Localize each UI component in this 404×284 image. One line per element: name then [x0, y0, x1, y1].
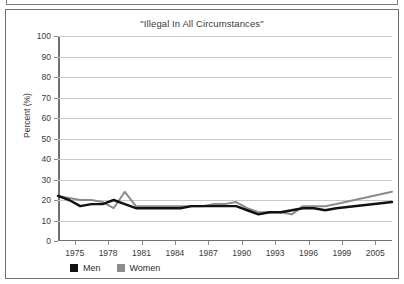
- legend-label: Men: [83, 263, 101, 273]
- plot-area: 0102030405060708090100 19751978198119841…: [58, 36, 392, 241]
- legend-swatch-men: [70, 264, 78, 272]
- x-axis-tick: [142, 241, 143, 245]
- x-axis-tick-label: 1981: [132, 248, 151, 258]
- chart-title: "Illegal In All Circumstances": [6, 18, 398, 29]
- x-axis-tick: [309, 241, 310, 245]
- x-axis-tick-label: 1990: [232, 248, 251, 258]
- y-axis-tick-label: 0: [46, 236, 51, 246]
- y-axis-tick-label: 60: [42, 113, 51, 123]
- x-axis-tick: [108, 241, 109, 245]
- x-axis-tick-label: 1975: [65, 248, 84, 258]
- y-axis-tick-label: 70: [42, 93, 51, 103]
- top-clipped-element: [6, 0, 398, 5]
- x-axis-tick: [75, 241, 76, 245]
- x-axis-tick: [208, 241, 209, 245]
- y-axis-tick-label: 50: [42, 134, 51, 144]
- x-axis-tick: [275, 241, 276, 245]
- y-axis-tick-label: 10: [42, 216, 51, 226]
- y-axis-title: Percent (%): [22, 93, 32, 138]
- y-axis-tick-label: 30: [42, 175, 51, 185]
- y-axis-tick-label: 90: [42, 52, 51, 62]
- legend-swatch-women: [117, 264, 125, 272]
- y-axis-tick-label: 80: [42, 72, 51, 82]
- y-axis-tick-label: 100: [37, 31, 51, 41]
- y-axis-tick-label: 20: [42, 195, 51, 205]
- x-axis-tick-label: 2005: [366, 248, 385, 258]
- x-axis-tick-label: 1978: [99, 248, 118, 258]
- chart-legend: MenWomen: [70, 263, 160, 273]
- x-axis-tick-label: 1999: [332, 248, 351, 258]
- x-axis-tick-label: 1993: [266, 248, 285, 258]
- x-axis-tick: [375, 241, 376, 245]
- series-lines: [58, 36, 392, 241]
- x-axis-tick: [242, 241, 243, 245]
- x-axis-tick-label: 1987: [199, 248, 218, 258]
- legend-label: Women: [130, 263, 161, 273]
- y-axis-tick: [54, 241, 58, 242]
- legend-item-women: Women: [117, 263, 161, 273]
- x-axis-tick: [342, 241, 343, 245]
- legend-item-men: Men: [70, 263, 101, 273]
- x-axis-tick: [175, 241, 176, 245]
- x-axis-tick-label: 1984: [165, 248, 184, 258]
- figure-frame: "Illegal In All Circumstances" Percent (…: [5, 9, 399, 279]
- y-axis-tick-label: 40: [42, 154, 51, 164]
- x-axis-tick-label: 1996: [299, 248, 318, 258]
